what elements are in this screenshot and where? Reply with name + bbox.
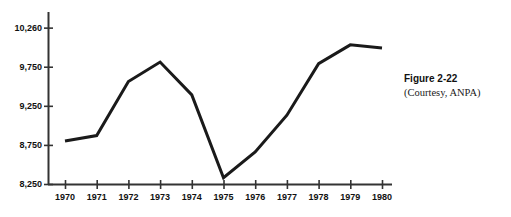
data-series-line bbox=[65, 45, 382, 178]
figure-caption: Figure 2-22 (Courtesy, ANPA) bbox=[404, 72, 509, 99]
line-chart: 8,2508,7509,2509,75010,260 1970197119721… bbox=[0, 0, 400, 217]
x-axis-tick-label: 1980 bbox=[360, 192, 404, 202]
y-axis-tick-label: 8,250 bbox=[19, 179, 42, 189]
figure-container: 8,2508,7509,2509,75010,260 1970197119721… bbox=[0, 0, 511, 217]
chart-svg-canvas bbox=[0, 0, 400, 217]
y-axis-tick-label: 10,260 bbox=[14, 23, 42, 33]
y-axis-tick-label: 9,750 bbox=[19, 62, 42, 72]
figure-caption-credit: (Courtesy, ANPA) bbox=[404, 86, 509, 99]
y-axis-tick-label: 9,250 bbox=[19, 101, 42, 111]
chart-axes bbox=[48, 12, 392, 185]
y-axis-tick-label: 8,750 bbox=[19, 140, 42, 150]
figure-caption-title: Figure 2-22 bbox=[404, 72, 509, 85]
